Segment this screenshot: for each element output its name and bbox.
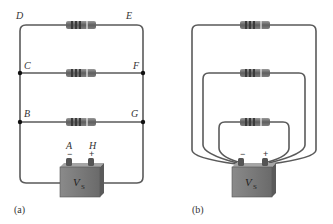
resistor-bg [66,118,96,126]
terminal-h [88,158,94,166]
wire-b-inner-left [219,122,240,162]
resistor-cf [66,69,96,77]
battery-subscript-a: S [81,183,85,191]
caption-a: (a) [14,204,25,216]
node-b-dot [18,120,22,124]
wire-b-middle-left [203,73,240,163]
node-g-dot [141,120,145,124]
terminal-b-minus [238,158,244,166]
label-b: B [24,108,30,119]
terminal-b-plus [262,158,268,166]
battery-a: V S [60,158,104,197]
plus-sign-a: + [89,149,94,159]
wire-top-right [96,25,143,183]
label-c: C [24,60,31,71]
label-f: F [132,60,140,71]
wire-b-inner-right [268,122,289,162]
parallel-circuit-figure: D E C F B G A H − + V S (a) [0,0,333,224]
caption-b: (b) [192,204,204,216]
label-g: G [131,108,138,119]
node-c-dot [18,71,22,75]
wire-b-outer-left [192,25,240,164]
minus-sign-a: − [67,149,72,159]
resistor-b-top [240,21,270,29]
panel-a: D E C F B G A H − + V S (a) [14,10,145,216]
resistor-de [66,21,96,29]
panel-b: − + V S (b) [192,21,316,216]
node-f-dot [141,71,145,75]
wire-b-middle-right [269,73,305,163]
resistor-b-bottom [240,118,270,126]
plus-sign-b: + [263,149,268,159]
label-d: D [15,10,24,21]
battery-b: V S [232,158,276,197]
resistor-b-middle [240,69,270,77]
minus-sign-b: − [240,149,245,159]
battery-subscript-b: S [253,183,257,191]
wire-b-outer-right [270,25,316,164]
label-e: E [125,10,132,21]
terminal-a [66,158,72,166]
wire-top-left [20,25,68,183]
